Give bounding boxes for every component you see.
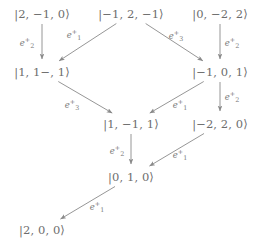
edge-label-n3-to-n5: e+2 bbox=[225, 36, 239, 51]
ket-node-n7: |−2, 2, 0⟩ bbox=[192, 117, 248, 131]
operator-subscript: 2 bbox=[235, 96, 239, 104]
edge-label-n6-to-n8: e+2 bbox=[110, 144, 124, 159]
edge-label-n8-to-n9: e+1 bbox=[90, 200, 104, 215]
operator-subscript: 1 bbox=[100, 206, 104, 214]
diagram-canvas: |2, −1, 0⟩|−1, 2, −1⟩|0, −2, 2⟩|1, 1−, 1… bbox=[0, 0, 263, 250]
ket-node-n6: |1, −1, 1⟩ bbox=[103, 117, 159, 131]
operator-subscript: 1 bbox=[77, 34, 81, 42]
ket-node-n2: |−1, 2, −1⟩ bbox=[98, 7, 163, 21]
edge-label-n7-to-n8: e+1 bbox=[173, 148, 187, 163]
ket-node-n8: |0, 1, 0⟩ bbox=[108, 170, 154, 184]
operator-subscript: 1 bbox=[183, 104, 187, 112]
edge-label-n5-to-n7: e+2 bbox=[225, 90, 239, 105]
edge-label-n1-to-n4: e+2 bbox=[20, 36, 34, 51]
operator-subscript: 3 bbox=[179, 35, 183, 43]
operator-subscript: 2 bbox=[235, 42, 239, 50]
operator-subscript: 3 bbox=[75, 104, 79, 112]
edge-label-n5-to-n6: e+1 bbox=[173, 98, 187, 113]
edge-label-n2-to-n5: e+3 bbox=[169, 29, 183, 44]
ket-node-n3: |0, −2, 2⟩ bbox=[192, 7, 248, 21]
ket-node-n5: |−1, 0, 1⟩ bbox=[192, 65, 248, 79]
operator-subscript: 1 bbox=[183, 154, 187, 162]
ket-node-n9: |2, 0, 0⟩ bbox=[19, 223, 65, 237]
operator-subscript: 2 bbox=[120, 150, 124, 158]
edge-n8-to-n9 bbox=[61, 187, 115, 219]
edge-label-n2-to-n4: e+1 bbox=[67, 28, 81, 43]
operator-subscript: 2 bbox=[30, 42, 34, 50]
ket-node-n4: |1, 1−, 1⟩ bbox=[14, 65, 70, 79]
edge-label-n4-to-n6: e+3 bbox=[65, 98, 79, 113]
ket-node-n1: |2, −1, 0⟩ bbox=[14, 7, 70, 21]
